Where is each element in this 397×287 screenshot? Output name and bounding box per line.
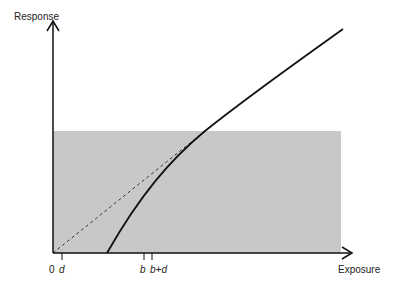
- tick-label-d: d: [59, 264, 65, 275]
- x-axis-label: Exposure: [338, 264, 380, 275]
- y-axis-label: Response: [14, 11, 59, 22]
- tick-label-zero: 0: [49, 264, 55, 275]
- shaded-region: [53, 131, 341, 253]
- response-exposure-diagram: [0, 0, 397, 287]
- tick-label-b: b: [140, 264, 146, 275]
- tick-label-b-plus-d: b+d: [150, 264, 167, 275]
